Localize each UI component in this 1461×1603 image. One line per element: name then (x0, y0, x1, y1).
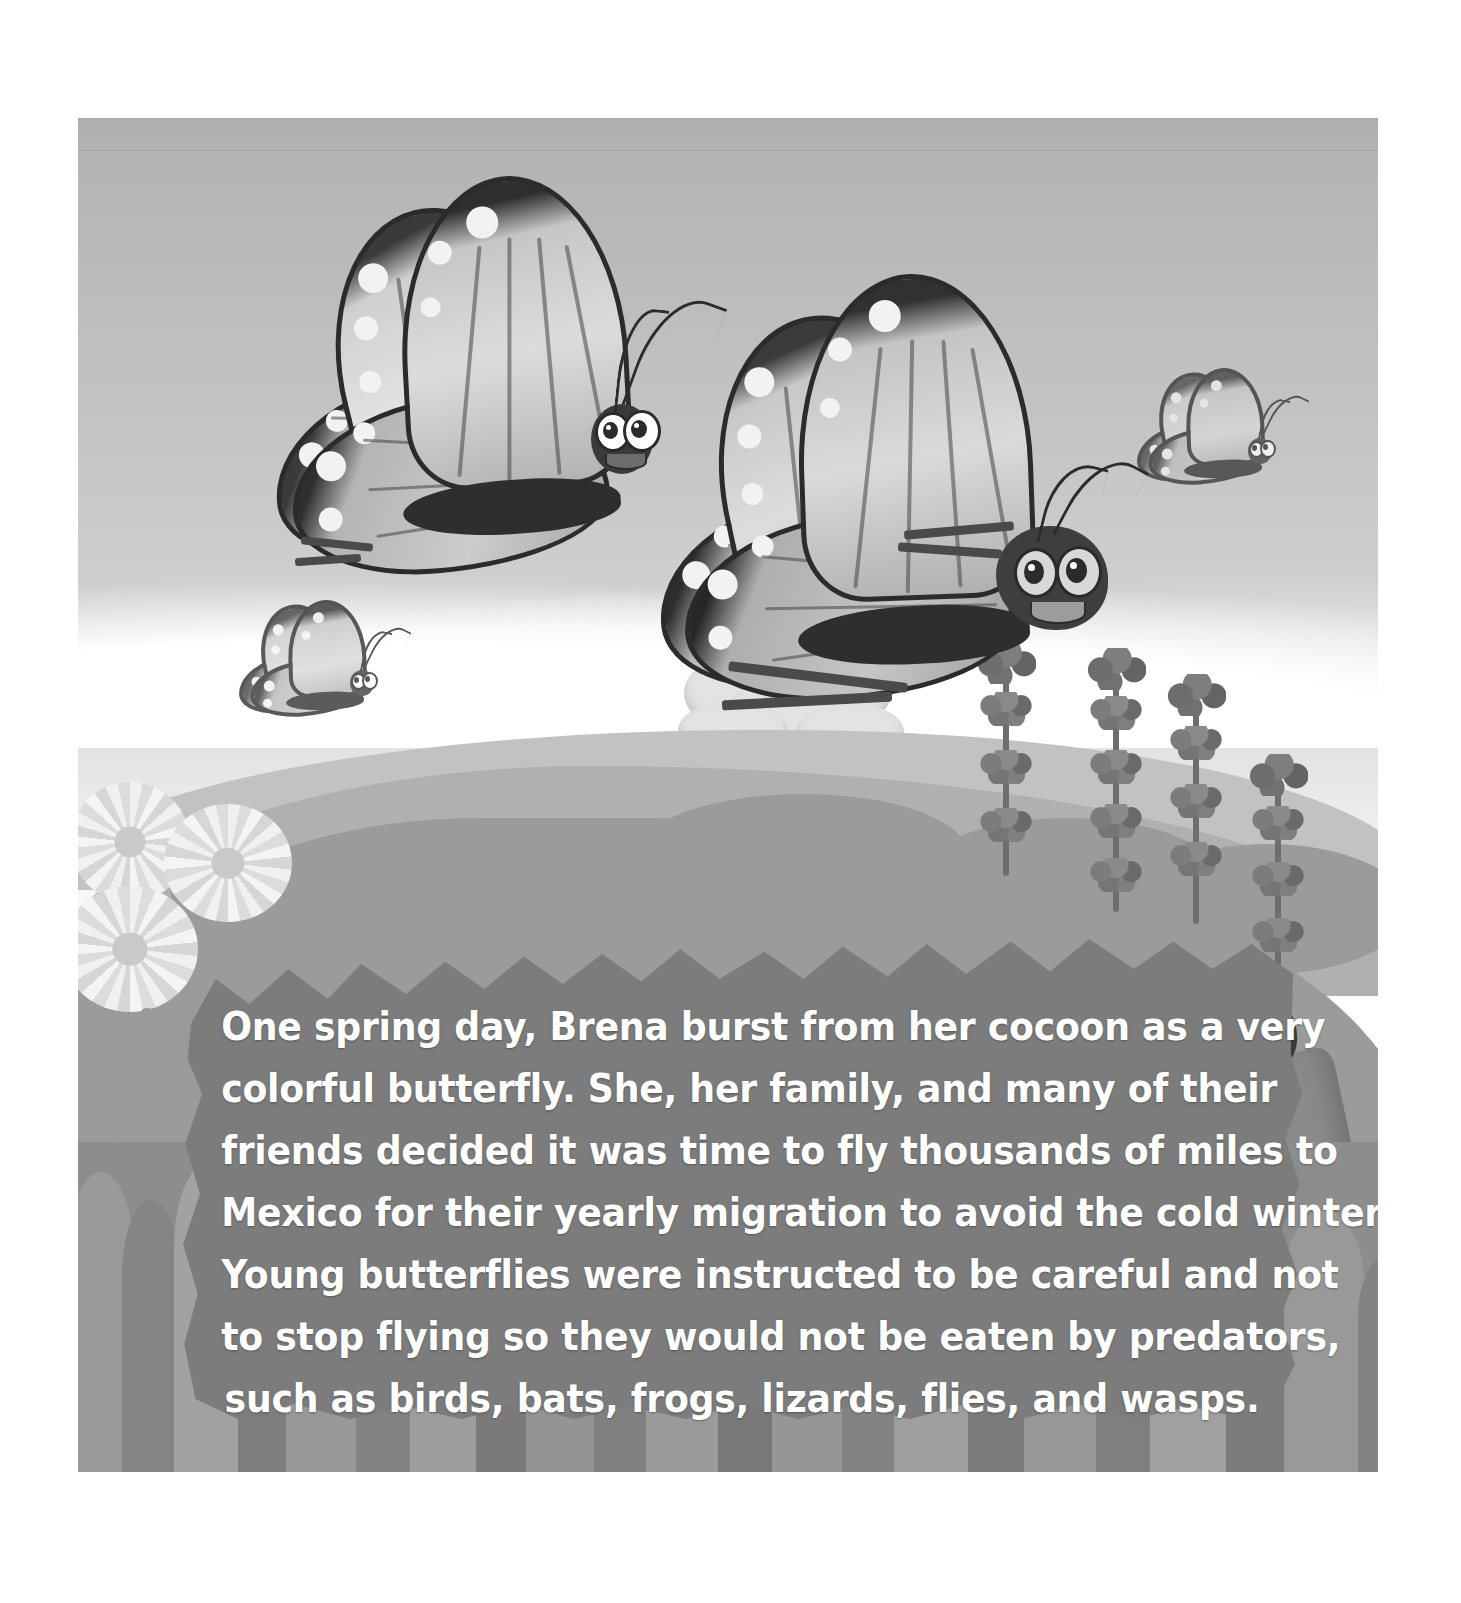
story-line: Young butterflies were instructed to be … (221, 1244, 1263, 1306)
story-line: One spring day, Brena burst from her coc… (221, 996, 1263, 1058)
illustration-canvas: One spring day, Brena burst from her coc… (78, 118, 1378, 1472)
story-line: friends decided it was time to fly thous… (221, 1120, 1263, 1182)
story-line: such as birds, bats, frogs, lizards, fli… (221, 1368, 1263, 1430)
story-line: Mexico for their yearly migration to avo… (221, 1182, 1263, 1244)
hill-bump-a (638, 794, 968, 914)
butterfly-small-upper-right (1136, 366, 1296, 486)
story-line: colorful butterfly. She, her family, and… (221, 1058, 1263, 1120)
sky-seam-line (78, 150, 1378, 151)
daisy-left-lower (78, 886, 198, 1012)
butterfly-large-right (648, 258, 1128, 728)
butterfly-small-lower-left (238, 598, 398, 718)
story-line: to stop flying so they would not be eate… (221, 1306, 1263, 1368)
lavender-stalk-3 (1168, 678, 1224, 924)
butterfly-mouth (1030, 602, 1086, 624)
butterfly-mouth (605, 454, 647, 470)
story-text-block: One spring day, Brena burst from her coc… (182, 924, 1302, 1424)
